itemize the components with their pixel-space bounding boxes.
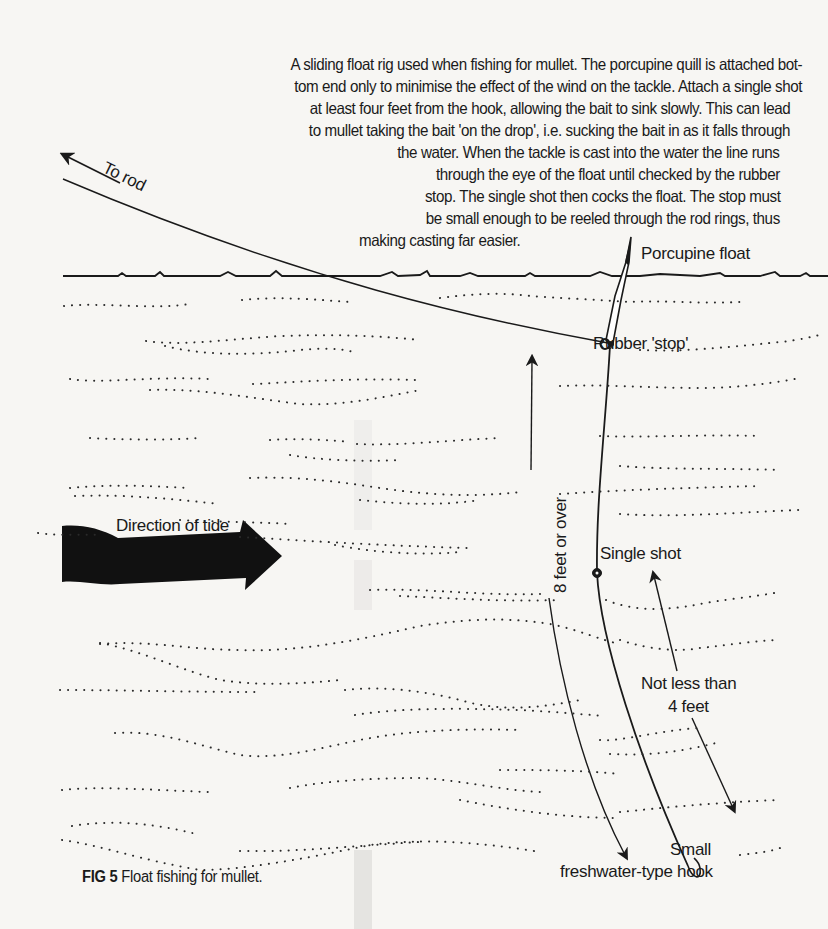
hook-type-label: freshwater-type hook [560,862,713,882]
figure-caption-text: Float fishing for mullet. [121,868,262,885]
description-line-2: tom end only to minimise the effect of t… [294,75,802,97]
eight-feet-arrow-up [531,360,532,470]
description-line-1: A sliding float rig used when fishing fo… [290,53,802,75]
four-feet-arrow-down [692,718,733,808]
description-line-8: be small enough to be reeled through the… [426,207,780,229]
not-less-than-label: Not less than [641,674,736,694]
main-line [597,345,688,866]
eight-feet-label: 8 feet or over [551,497,571,593]
eight-feet-arrow-down [549,598,625,855]
four-feet-arrow-up [654,576,677,671]
description-line-9: making casting far easier. [359,229,520,251]
water-surface [63,271,828,276]
rubber-stop-label: Rubber 'stop' [593,334,688,354]
description-line-4: to mullet taking the bait 'on the drop',… [309,119,790,141]
figure-number: FIG 5 [82,868,117,885]
small-label: Small [670,840,711,860]
description-line-3: at least four feet from the hook, allowi… [309,97,790,119]
single-shot-label: Single shot [600,544,681,564]
description-line-7: stop. The single shot then cocks the flo… [424,185,780,207]
float-fishing-figure: A sliding float rig used when fishing fo… [0,0,828,929]
figure-caption: FIG 5 Float fishing for mullet. [82,868,262,886]
description-line-5: the water. When the tackle is cast into … [398,141,780,163]
porcupine-float-label: Porcupine float [641,244,750,264]
four-feet-label: 4 feet [668,697,709,717]
description-line-6: through the eye of the float until check… [436,163,780,185]
direction-of-tide-label: Direction of tide [116,516,229,536]
